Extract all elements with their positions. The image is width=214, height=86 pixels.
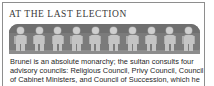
figure-head: [129, 27, 136, 34]
person-figure-icon: [145, 27, 158, 51]
figure-head: [54, 27, 61, 34]
figure-leg-right: [152, 43, 156, 51]
figure-leg-left: [72, 43, 76, 51]
figure-torso: [109, 35, 119, 44]
figure-head: [92, 27, 99, 34]
person-figure-icon: [51, 27, 64, 51]
figure-torso: [53, 35, 63, 44]
figure-torso: [72, 35, 82, 44]
figure-leg-left: [91, 43, 95, 51]
page-title: AT THE LAST ELECTION: [9, 9, 127, 20]
figure-head: [36, 27, 43, 34]
figure-leg-right: [40, 43, 44, 51]
figure-torso: [165, 35, 175, 44]
figure-leg-right: [77, 43, 81, 51]
person-figure-icon: [126, 27, 139, 51]
figure-torso: [16, 35, 26, 44]
person-figure-icon: [70, 27, 83, 51]
figure-group: [9, 22, 200, 54]
figure-leg-right: [59, 43, 63, 51]
figure-head: [185, 27, 192, 34]
figure-leg-left: [53, 43, 57, 51]
at-the-last-election-panel: AT THE LAST ELECTION Brunei is an absolu…: [0, 0, 214, 86]
figure-torso: [34, 35, 44, 44]
person-figure-icon: [33, 27, 46, 51]
person-figure-icon: [107, 27, 120, 51]
figure-leg-left: [165, 43, 169, 51]
person-figure-icon: [14, 27, 27, 51]
figure-torso: [184, 35, 194, 44]
figure-torso: [90, 35, 100, 44]
figure-leg-left: [16, 43, 20, 51]
row-of-people-figures-illustration: [9, 22, 200, 54]
body-line: of Cabinet Ministers, and Council of Suc…: [10, 75, 202, 84]
figure-head: [110, 27, 117, 34]
figure-leg-right: [133, 43, 137, 51]
figure-leg-left: [184, 43, 188, 51]
body-line: Brunei is an absolute monarchy; the sult…: [10, 57, 202, 66]
figure-leg-left: [128, 43, 132, 51]
figure-torso: [128, 35, 138, 44]
figure-leg-left: [109, 43, 113, 51]
figure-leg-right: [96, 43, 100, 51]
figure-leg-left: [147, 43, 151, 51]
body-text: Brunei is an absolute monarchy; the sult…: [10, 57, 202, 85]
figure-leg-left: [35, 43, 39, 51]
person-figure-icon: [182, 27, 195, 51]
person-figure-icon: [163, 27, 176, 51]
figure-head: [148, 27, 155, 34]
figure-leg-right: [115, 43, 119, 51]
body-line: advisory councils: Religious Council, Pr…: [10, 66, 202, 75]
figure-leg-right: [21, 43, 25, 51]
panel-frame: AT THE LAST ELECTION Brunei is an absolu…: [2, 2, 205, 86]
figure-head: [166, 27, 173, 34]
figure-head: [17, 27, 24, 34]
figure-leg-right: [171, 43, 175, 51]
figure-torso: [146, 35, 156, 44]
figure-head: [73, 27, 80, 34]
panel-frame-inner: AT THE LAST ELECTION Brunei is an absolu…: [3, 3, 204, 86]
figure-leg-right: [189, 43, 193, 51]
person-figure-icon: [89, 27, 102, 51]
